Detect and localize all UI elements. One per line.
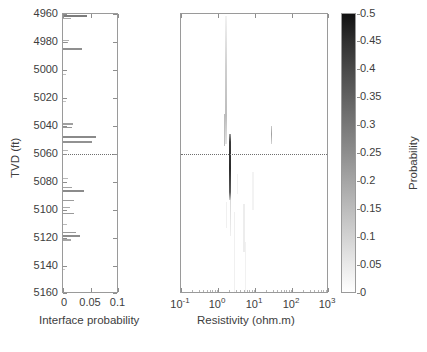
x-tick-exponent: 2 xyxy=(295,296,299,305)
y-tick-label: 5120 xyxy=(14,232,58,243)
density-trace xyxy=(229,134,231,200)
x-tick-exponent: 1 xyxy=(258,296,262,305)
density-trace xyxy=(234,212,236,292)
x-tick-label: 0.1 xyxy=(107,297,128,308)
interface-spike xyxy=(63,74,66,75)
colorbar-tick-label: 0.5 xyxy=(360,8,375,19)
x-tick-label: 0.05 xyxy=(76,297,104,308)
resistivity-probability-axes xyxy=(180,13,328,293)
y-tick-label: 4980 xyxy=(14,36,58,47)
x-tick-label: 101 xyxy=(241,297,267,310)
x-tick-exponent: 0 xyxy=(221,296,225,305)
colorbar-tick-label: 0 xyxy=(360,287,366,298)
x-tick-mantissa: 10 xyxy=(283,298,295,310)
x-tick-mantissa: 10 xyxy=(246,298,258,310)
interface-spike xyxy=(63,101,66,102)
colorbar-tick-label: 0.4 xyxy=(360,63,375,74)
density-trace xyxy=(226,202,227,228)
probability-colorbar xyxy=(341,13,356,293)
interface-probability-plot-area xyxy=(63,14,117,292)
left-x-axis-label: Interface probability xyxy=(39,315,139,327)
interface-spike xyxy=(63,190,84,192)
x-tick-label: 100 xyxy=(204,297,230,310)
interface-spike xyxy=(63,235,80,237)
colorbar-tick-label: 0.45 xyxy=(360,35,381,46)
interface-spike xyxy=(63,136,96,138)
interface-spike xyxy=(63,239,71,240)
colorbar-tick-label: 0.25 xyxy=(360,147,381,158)
x-tick-exponent: 3 xyxy=(331,296,335,305)
right-x-axis-label: Resistivity (ohm.m) xyxy=(197,315,295,327)
colorbar-tick-label: 0.15 xyxy=(360,203,381,214)
density-trace xyxy=(252,172,254,210)
density-trace xyxy=(237,174,238,194)
x-tick-mantissa: 10 xyxy=(319,298,331,310)
density-trace xyxy=(225,16,227,144)
x-tick-label: 0 xyxy=(59,297,69,308)
colorbar-label: Probability xyxy=(408,136,420,190)
density-trace xyxy=(230,200,231,236)
colorbar-tick-label: 0.3 xyxy=(360,119,375,130)
left-y-axis-label: TVD (ft) xyxy=(10,138,22,178)
y-tick-label: 5040 xyxy=(14,120,58,131)
density-trace xyxy=(224,114,225,146)
interface-spike xyxy=(63,18,71,19)
interface-spike xyxy=(63,207,70,208)
interface-spike xyxy=(63,178,68,179)
colorbar-tick-label: 0.1 xyxy=(360,231,375,242)
interface-spike xyxy=(63,232,76,234)
resistivity-plot-area xyxy=(181,14,327,292)
interface-spike xyxy=(63,213,74,215)
interface-probability-axes xyxy=(62,13,118,293)
interface-spike xyxy=(63,200,74,201)
interface-spike xyxy=(63,187,72,188)
reference-depth-line xyxy=(63,154,117,155)
interface-spike xyxy=(63,40,69,41)
x-tick-label: 10-1 xyxy=(167,297,193,310)
colorbar-tick-label: 0.35 xyxy=(360,91,381,102)
x-tick-mantissa: 10 xyxy=(209,298,221,310)
reference-depth-line xyxy=(181,154,327,155)
density-trace xyxy=(245,242,247,292)
y-tick-label: 5000 xyxy=(14,64,58,75)
colorbar-tick-label: 0.2 xyxy=(360,175,375,186)
x-tick-label: 102 xyxy=(278,297,304,310)
y-tick-label: 5020 xyxy=(14,92,58,103)
interface-spike xyxy=(63,123,73,124)
interface-spike xyxy=(63,48,82,50)
y-tick-label: 4960 xyxy=(14,8,58,19)
y-tick-label: 5160 xyxy=(14,287,58,298)
density-trace xyxy=(271,126,272,144)
figure-canvas: 4960 4980 5000 5020 5040 5060 5080 5100 … xyxy=(0,0,427,352)
colorbar-tick-label: 0.05 xyxy=(360,259,381,270)
interface-spike xyxy=(63,150,68,151)
y-tick-label: 5100 xyxy=(14,204,58,215)
x-tick-exponent: -1 xyxy=(183,296,190,305)
y-tick-label: 5140 xyxy=(14,260,58,271)
interface-spike xyxy=(63,15,87,18)
interface-spike xyxy=(63,141,92,143)
x-tick-mantissa: 10 xyxy=(170,298,182,310)
interface-spike xyxy=(63,224,67,225)
x-tick-label: 103 xyxy=(314,297,340,310)
interface-spike xyxy=(63,269,65,270)
